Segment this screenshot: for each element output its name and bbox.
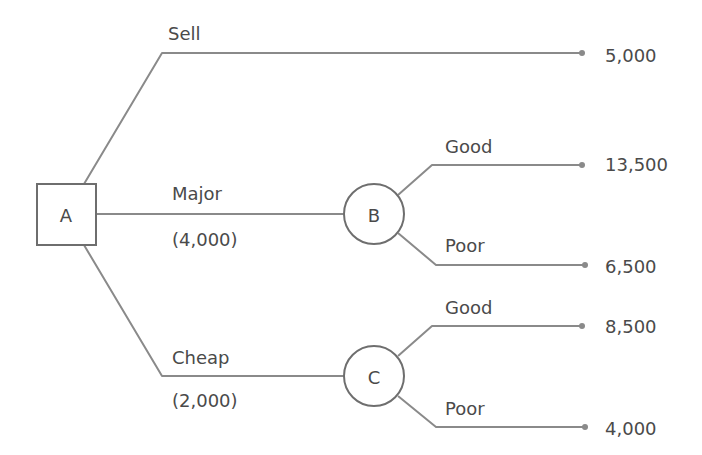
payoff-c-good: 8,500 — [605, 316, 657, 337]
branch-c-good: Good 8,500 — [398, 297, 657, 356]
branch-b-poor: Poor 6,500 — [398, 233, 657, 277]
terminal-dot — [582, 424, 588, 430]
terminal-dot — [579, 162, 585, 168]
terminal-dot — [582, 262, 588, 268]
branch-cheap: Cheap (2,000) — [84, 245, 344, 411]
branch-sell: Sell 5,000 — [84, 23, 657, 184]
decision-node-a: A — [37, 184, 96, 245]
branch-b-poor-line — [398, 233, 585, 265]
payoff-c-poor: 4,000 — [605, 418, 657, 439]
branch-c-poor-line — [398, 396, 585, 427]
payoff-sell: 5,000 — [605, 45, 657, 66]
chance-node-c: C — [344, 346, 404, 406]
branch-major-cost: (4,000) — [172, 229, 238, 250]
branch-sell-label: Sell — [168, 23, 201, 44]
branch-b-good-label: Good — [445, 136, 492, 157]
branch-c-good-label: Good — [445, 297, 492, 318]
payoff-b-good: 13,500 — [605, 154, 668, 175]
terminal-dot — [579, 50, 585, 56]
branch-c-poor: Poor 4,000 — [398, 396, 657, 439]
node-a-label: A — [60, 205, 73, 226]
branch-c-good-line — [398, 326, 582, 356]
branch-b-poor-label: Poor — [445, 235, 485, 256]
branch-cheap-label: Cheap — [172, 347, 230, 368]
branch-major: Major (4,000) — [96, 183, 344, 250]
branch-major-label: Major — [172, 183, 223, 204]
branch-b-good-line — [398, 165, 582, 195]
branch-cheap-cost: (2,000) — [172, 390, 238, 411]
node-b-label: B — [368, 205, 380, 226]
payoff-b-poor: 6,500 — [605, 256, 657, 277]
branch-b-good: Good 13,500 — [398, 136, 668, 195]
terminal-dot — [579, 323, 585, 329]
chance-node-b: B — [344, 184, 404, 244]
decision-tree-diagram: Sell 5,000 Major (4,000) Cheap (2,000) G… — [0, 0, 702, 455]
node-c-label: C — [368, 367, 381, 388]
branch-c-poor-label: Poor — [445, 398, 485, 419]
